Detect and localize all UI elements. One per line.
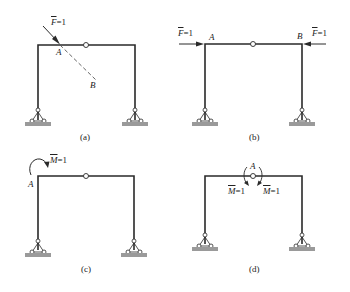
point-a-label-b: A xyxy=(209,33,215,42)
caption-b: (b) xyxy=(249,133,260,142)
diagram-panel-b: F=1 A B F=1 (b) xyxy=(175,0,350,146)
frame-a-svg xyxy=(0,0,175,146)
diagram-panel-a: F=1 A B (a) xyxy=(0,0,175,146)
moment-label-c: M=1 xyxy=(50,156,67,165)
force-right-label-b: F=1 xyxy=(312,29,327,38)
point-a-label-c: A xyxy=(28,180,34,189)
frame-d-svg xyxy=(175,146,350,292)
force-label-a: F=1 xyxy=(51,18,66,27)
moment-left-label-d: M=1 xyxy=(228,187,245,196)
caption-d: (d) xyxy=(249,265,260,274)
caption-c: (c) xyxy=(81,265,91,274)
point-a-label: A xyxy=(56,48,62,57)
caption-a: (a) xyxy=(80,133,90,142)
diagram-panel-d: A M=1 M=1 (d) xyxy=(175,146,350,292)
frame-b-svg xyxy=(175,0,350,146)
diagram-panel-c: M=1 A (c) xyxy=(0,146,175,292)
point-a-label-d: A xyxy=(250,162,256,171)
force-left-label-b: F=1 xyxy=(178,29,193,38)
point-b-label: B xyxy=(90,81,96,90)
moment-right-label-d: M=1 xyxy=(263,187,280,196)
point-b-label-b: B xyxy=(297,32,303,41)
